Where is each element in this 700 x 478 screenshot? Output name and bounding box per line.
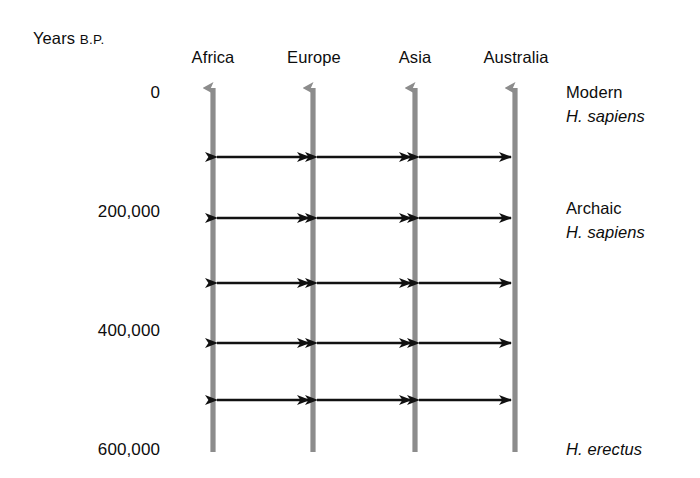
axis-title-main: Years bbox=[33, 29, 75, 47]
year-tick-400000: 400,000 bbox=[20, 322, 160, 339]
gene-flow-arrow-group bbox=[217, 157, 511, 400]
year-tick-label: 0 bbox=[150, 83, 160, 102]
year-tick-0: 0 bbox=[20, 84, 160, 101]
year-tick-label: 400,000 bbox=[98, 321, 160, 340]
lineage-arrow-group bbox=[213, 88, 515, 452]
year-tick-600000: 600,000 bbox=[20, 441, 160, 458]
axis-title-suffix: B.P. bbox=[80, 32, 105, 47]
axis-title: Years B.P. bbox=[33, 30, 104, 47]
diagram-root: Years B.P. 0 200,000 400,000 600,000 Afr… bbox=[0, 0, 700, 478]
year-tick-label: 600,000 bbox=[98, 440, 160, 459]
stage-species-archaic: H. sapiens bbox=[566, 224, 645, 241]
column-header-europe: Europe bbox=[287, 49, 341, 66]
year-tick-label: 200,000 bbox=[98, 202, 160, 221]
stage-species-erectus: H. erectus bbox=[566, 441, 642, 458]
column-header-africa: Africa bbox=[192, 49, 235, 66]
stage-label-modern: Modern bbox=[566, 84, 623, 101]
year-tick-200000: 200,000 bbox=[20, 203, 160, 220]
column-header-asia: Asia bbox=[399, 49, 432, 66]
column-header-australia: Australia bbox=[483, 49, 548, 66]
stage-species-modern: H. sapiens bbox=[566, 108, 645, 125]
stage-label-archaic: Archaic bbox=[566, 200, 622, 217]
